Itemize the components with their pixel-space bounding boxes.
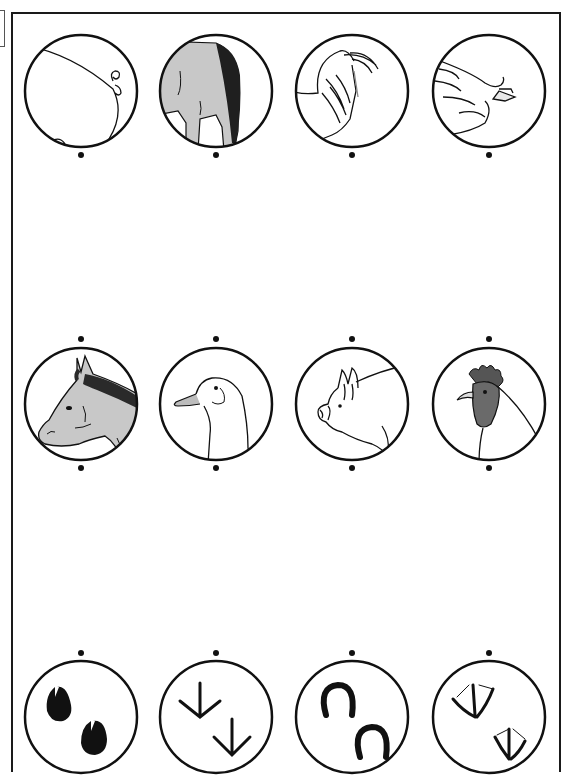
goose-tail-icon [429, 31, 549, 151]
match-dot-horse-head-top[interactable] [78, 336, 84, 342]
horse-head-card[interactable] [21, 344, 141, 464]
pig-head-icon [292, 344, 412, 464]
rooster-head-card[interactable] [429, 344, 549, 464]
horseshoe-card[interactable] [292, 657, 412, 777]
rooster-head-icon [429, 344, 549, 464]
horse-head-icon [21, 344, 141, 464]
rooster-tail-icon [292, 31, 412, 151]
pig-tail-icon [21, 31, 141, 151]
horse-tail-icon [156, 31, 276, 151]
horse-tail-card[interactable] [156, 31, 276, 151]
page-edge-marker [0, 10, 5, 47]
goose-head-icon [156, 344, 276, 464]
match-dot-horseshoe-prints[interactable] [349, 650, 355, 656]
webbed-footprint-card[interactable] [429, 657, 549, 777]
webbed-footprint-icon [429, 657, 549, 777]
hoofprint-card[interactable] [21, 657, 141, 777]
match-dot-hoofprints[interactable] [78, 650, 84, 656]
goose-tail-card[interactable] [429, 31, 549, 151]
rooster-tail-card[interactable] [292, 31, 412, 151]
goose-head-card[interactable] [156, 344, 276, 464]
match-dot-rooster-tail[interactable] [349, 152, 355, 158]
match-dot-rooster-head-top[interactable] [486, 336, 492, 342]
match-dot-goose-tail[interactable] [486, 152, 492, 158]
pig-head-card[interactable] [292, 344, 412, 464]
match-dot-rooster-head-bottom[interactable] [486, 465, 492, 471]
match-dot-chicken-footprints[interactable] [213, 650, 219, 656]
match-dot-goose-head-top[interactable] [213, 336, 219, 342]
horseshoe-icon [292, 657, 412, 777]
match-dot-pig-tail[interactable] [78, 152, 84, 158]
match-dot-goose-head-bottom[interactable] [213, 465, 219, 471]
chicken-footprint-card[interactable] [156, 657, 276, 777]
bird-footprint-icon [156, 657, 276, 777]
pig-tail-card[interactable] [21, 31, 141, 151]
hoofprint-icon [21, 657, 141, 777]
match-dot-pig-head-bottom[interactable] [349, 465, 355, 471]
match-dot-webbed-footprints[interactable] [486, 650, 492, 656]
match-dot-pig-head-top[interactable] [349, 336, 355, 342]
match-dot-horse-tail[interactable] [213, 152, 219, 158]
match-dot-horse-head-bottom[interactable] [78, 465, 84, 471]
